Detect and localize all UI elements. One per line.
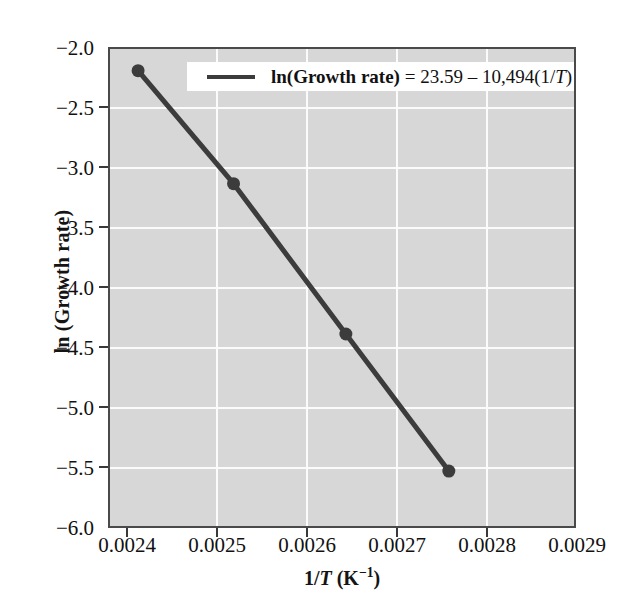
x-axis-title-units-open: (K	[332, 567, 359, 589]
legend-equation-body: = 23.59 – 10,494(1/	[400, 66, 555, 87]
legend-equation-variable: T	[555, 66, 566, 87]
x-axis-title-units-close: )	[373, 567, 380, 589]
y-tick-label: −5.5	[4, 456, 94, 481]
legend-equation-close: )	[566, 66, 572, 87]
x-axis-title-exponent: −1	[359, 565, 374, 580]
y-tick-label: −4.0	[4, 276, 94, 301]
x-axis-title-variable: T	[319, 567, 331, 589]
x-axis-title: 1/T (K−1)	[108, 565, 576, 590]
legend-line-swatch	[207, 75, 255, 79]
x-tick-label: 0.0029	[522, 533, 631, 558]
y-tick-label: −5.0	[4, 396, 94, 421]
data-point	[132, 64, 145, 77]
x-axis-title-prefix: 1/	[304, 567, 320, 589]
fit-line	[138, 71, 449, 471]
data-point	[339, 327, 352, 340]
data-series-layer	[110, 49, 576, 528]
y-tick-label: −3.5	[4, 216, 94, 241]
legend-label: ln(Growth rate) = 23.59 – 10,494(1/T)	[271, 66, 572, 88]
data-point	[227, 177, 240, 190]
y-tick-label: −2.0	[4, 36, 94, 61]
plot-area: ln(Growth rate) = 23.59 – 10,494(1/T)	[108, 47, 576, 528]
y-tick-label: −2.5	[4, 96, 94, 121]
data-point	[442, 465, 455, 478]
y-tick-label: −3.0	[4, 156, 94, 181]
arrhenius-growth-rate-chart: ln (Growth rate) −2.0 −2.5 −3.0 −3.5 −4.…	[0, 0, 631, 615]
legend-equation-name: ln(Growth rate)	[271, 66, 400, 87]
legend: ln(Growth rate) = 23.59 – 10,494(1/T)	[187, 62, 574, 91]
y-tick-label: −4.5	[4, 336, 94, 361]
